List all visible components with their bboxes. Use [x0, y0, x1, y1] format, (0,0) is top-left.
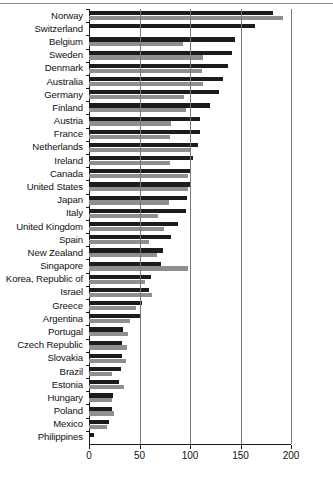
- category-label: Israel: [60, 286, 83, 298]
- y-tick-mark: [86, 141, 89, 142]
- y-tick-mark: [86, 259, 89, 260]
- bar-series-2: [89, 55, 203, 59]
- bar-series-1: [89, 103, 210, 107]
- category-label: Australia: [47, 76, 83, 88]
- bar-series-1: [89, 156, 193, 160]
- bar-series-2: [89, 82, 203, 86]
- bar-series-1: [89, 130, 200, 134]
- y-tick-mark: [86, 75, 89, 76]
- bar-series-1: [89, 262, 161, 266]
- y-tick-mark: [86, 220, 89, 221]
- category-label: Ireland: [54, 155, 83, 167]
- category-label: Estonia: [52, 379, 83, 391]
- bar-series-1: [89, 196, 187, 200]
- bar-series-1: [89, 367, 121, 371]
- bar-series-1: [89, 354, 122, 358]
- y-tick-mark: [86, 49, 89, 50]
- bar-series-1: [89, 222, 178, 226]
- x-tick-label-150: 150: [232, 449, 249, 462]
- x-tick-label-100: 100: [182, 449, 199, 462]
- bar-series-1: [89, 420, 109, 424]
- category-label: Netherlands: [32, 141, 83, 153]
- bar-series-1: [89, 327, 123, 331]
- y-tick-mark: [86, 418, 89, 419]
- category-label: Italy: [66, 207, 83, 219]
- bar-series-2: [89, 187, 188, 191]
- category-label: United Kingdom: [16, 221, 83, 233]
- bar-series-1: [89, 37, 235, 41]
- bar-series-2: [89, 319, 130, 323]
- y-tick-mark: [86, 325, 89, 326]
- y-tick-mark: [86, 365, 89, 366]
- y-tick-mark: [86, 128, 89, 129]
- bar-series-2: [89, 200, 169, 204]
- category-label: Philippines: [38, 431, 83, 443]
- y-tick-mark: [86, 154, 89, 155]
- category-label: Austria: [54, 115, 83, 127]
- y-tick-mark: [86, 273, 89, 274]
- category-label: Mexico: [53, 418, 83, 430]
- bar-series-2: [89, 227, 164, 231]
- bar-series-2: [89, 42, 183, 46]
- bar-series-2: [89, 372, 112, 376]
- category-label: Poland: [54, 405, 83, 417]
- bar-series-2: [89, 121, 171, 125]
- bar-series-1: [89, 407, 112, 411]
- y-tick-mark: [86, 207, 89, 208]
- category-label: France: [54, 128, 83, 140]
- category-label: Portugal: [48, 326, 83, 338]
- bar-series-1: [89, 433, 94, 437]
- y-tick-mark: [86, 404, 89, 405]
- category-label: New Zealand: [28, 247, 83, 259]
- bar-series-2: [89, 95, 184, 99]
- x-tick-label-200: 200: [283, 449, 300, 462]
- y-tick-mark: [86, 339, 89, 340]
- bar-series-1: [89, 77, 223, 81]
- category-label: Brazil: [60, 366, 83, 378]
- category-label: Greece: [52, 300, 83, 312]
- category-label: Denmark: [45, 62, 83, 74]
- x-tick-label-0: 0: [86, 449, 92, 462]
- gridline-x-50: [140, 9, 141, 444]
- bar-series-1: [89, 64, 228, 68]
- y-tick-mark: [86, 352, 89, 353]
- bar-series-1: [89, 301, 142, 305]
- bar-series-2: [89, 266, 188, 270]
- bar-series-2: [89, 69, 202, 73]
- bar-series-2: [89, 214, 158, 218]
- category-label: Spain: [59, 234, 83, 246]
- bar-series-2: [89, 280, 145, 284]
- category-axis-labels: NorwaySwitzerlandBelgiumSwedenDenmarkAus…: [0, 9, 86, 444]
- category-label: United States: [27, 181, 83, 193]
- y-tick-mark: [86, 312, 89, 313]
- bar-series-2: [89, 411, 114, 415]
- bar-series-2: [89, 135, 170, 139]
- category-label: Belgium: [49, 36, 83, 48]
- y-tick-mark: [86, 9, 89, 10]
- bar-series-2: [89, 398, 112, 402]
- y-tick-mark: [86, 286, 89, 287]
- bar-series-2: [89, 306, 136, 310]
- bar-series-2: [89, 293, 152, 297]
- category-label: Argentina: [43, 313, 83, 325]
- category-label: Canada: [50, 168, 83, 180]
- x-tick-label-50: 50: [134, 449, 145, 462]
- y-tick-mark: [86, 22, 89, 23]
- bar-series-2: [89, 16, 283, 20]
- gridline-x-100: [190, 9, 191, 444]
- y-tick-mark: [86, 299, 89, 300]
- bar-series-1: [89, 90, 219, 94]
- y-tick-mark: [86, 101, 89, 102]
- y-tick-mark: [86, 167, 89, 168]
- bar-series-2: [89, 332, 128, 336]
- y-tick-mark: [86, 391, 89, 392]
- y-tick-mark: [86, 194, 89, 195]
- x-axis-tick-labels: 050100150200: [0, 449, 333, 463]
- bar-series-2: [89, 359, 126, 363]
- category-label: Hungary: [47, 392, 83, 404]
- y-tick-mark: [86, 233, 89, 234]
- category-label: Slovakia: [48, 352, 83, 364]
- bar-series-1: [89, 143, 198, 147]
- gridline-x-200: [291, 9, 292, 444]
- bar-series-1: [89, 314, 141, 318]
